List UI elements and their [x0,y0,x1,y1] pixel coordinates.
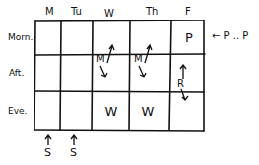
cell-wednesday-evening: W [101,104,121,119]
schedule-grid: P M M R W W [34,20,206,132]
arrow-down-icon [179,88,191,102]
day-header-monday: M [45,6,54,17]
cell-friday-morning: P [179,30,199,45]
arrow-up-icon [104,43,116,65]
period-label-evening: Eve. [8,106,27,116]
arrow-up-icon [43,134,53,146]
arrow-down-icon [137,65,149,79]
day-header-friday: F [185,6,191,17]
day-header-wednesday: W [104,8,114,19]
annotation-below-tuesday: S [70,146,77,159]
arrow-up-icon [69,134,79,146]
annotation-right: ← P .. P [212,30,248,41]
day-header-tuesday: Tu [71,6,82,17]
arrow-up-icon [142,43,154,65]
arrow-down-icon [98,65,110,79]
annotation-below-monday: S [44,146,51,159]
period-label-afternoon: Aft. [9,68,24,78]
period-label-morning: Morn. [8,32,33,42]
cell-thursday-evening: W [138,104,158,119]
day-header-thursday: Th [146,6,158,17]
